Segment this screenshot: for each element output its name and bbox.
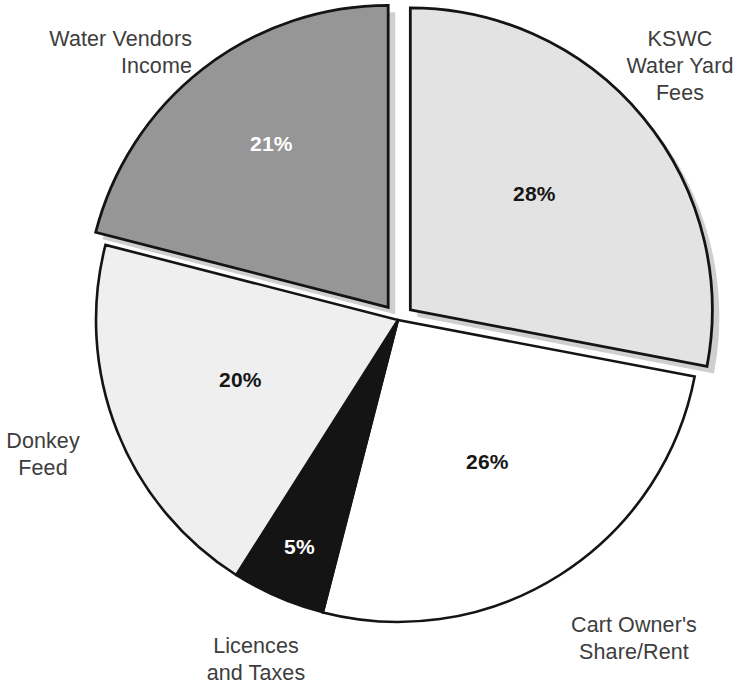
slice-label-kswc-water-yard-fees: KSWC Water Yard Fees <box>614 26 746 107</box>
slice-value-kswc-water-yard-fees: 28% <box>513 182 556 206</box>
slice-label-licences-and-taxes: Licences and Taxes <box>180 633 332 687</box>
slice-label-water-vendors-income: Water Vendors Income <box>14 26 192 80</box>
slice-value-cart-owners-share-rent: 26% <box>466 450 509 474</box>
slice-value-water-vendors-income: 21% <box>250 132 293 156</box>
slice-label-cart-owners-share-rent: Cart Owner's Share/Rent <box>550 612 718 666</box>
slice-label-donkey-feed: Donkey Feed <box>0 428 88 482</box>
slice-value-licences-and-taxes: 5% <box>284 535 315 559</box>
slice-value-donkey-feed: 20% <box>219 368 262 392</box>
pie-chart: Water Vendors Income KSWC Water Yard Fee… <box>0 0 747 689</box>
